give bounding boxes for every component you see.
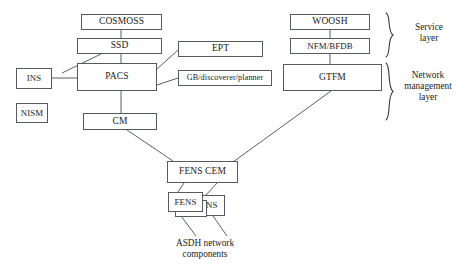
- node-fens[interactable]: FENS: [168, 192, 203, 212]
- edge-gtfm-fenscem: [233, 91, 331, 162]
- node-label: GTFM: [319, 73, 346, 83]
- node-gb-discoverer-planner[interactable]: GB/discoverer/planner: [178, 70, 272, 86]
- edge-fenscem-ens: [206, 183, 217, 195]
- edge-pacs-gb: [157, 78, 178, 85]
- network-management-layer-brace: [384, 62, 397, 121]
- node-nfm-bfdb[interactable]: NFM/BFDB: [290, 38, 370, 54]
- node-label: CM: [113, 117, 128, 127]
- node-woosh[interactable]: WOOSH: [290, 14, 370, 30]
- node-label: FENS CEM: [179, 167, 226, 177]
- network-management-layer-label: Network management layer: [398, 70, 458, 103]
- edge-cm-fenscem: [127, 130, 173, 161]
- node-label: FENS: [175, 198, 197, 207]
- edge-fenscem-fens: [178, 183, 184, 192]
- node-label: GB/discoverer/planner: [187, 74, 264, 82]
- caption-text: Network management layer: [404, 70, 452, 102]
- node-ept[interactable]: EPT: [178, 41, 263, 57]
- node-cm[interactable]: CM: [83, 113, 157, 130]
- node-pacs[interactable]: PACS: [77, 63, 157, 91]
- node-label: SSD: [111, 41, 129, 51]
- caption-text: ASDH network components: [176, 238, 234, 259]
- node-ins[interactable]: INS: [16, 68, 52, 89]
- architecture-diagram: COSMOSS SSD PACS INS NISM CM EPT GB/disc…: [0, 0, 462, 269]
- node-nism[interactable]: NISM: [16, 103, 48, 123]
- caption-text: Service layer: [415, 22, 443, 43]
- edge-ens-asdh: [213, 216, 227, 236]
- node-label: COSMOSS: [99, 17, 144, 27]
- node-fens-cem[interactable]: FENS CEM: [167, 161, 238, 183]
- node-ssd[interactable]: SSD: [77, 38, 162, 54]
- node-label: EPT: [212, 44, 229, 54]
- service-layer-brace: [384, 12, 397, 58]
- service-layer-label: Service layer: [400, 22, 458, 44]
- asdh-network-components-label: ASDH network components: [150, 238, 260, 260]
- node-label: WOOSH: [312, 17, 347, 27]
- node-label: PACS: [105, 72, 128, 82]
- node-gtfm[interactable]: GTFM: [283, 64, 382, 91]
- node-label: INS: [27, 74, 41, 83]
- node-label: NFM/BFDB: [307, 42, 352, 51]
- node-cosmoss[interactable]: COSMOSS: [81, 14, 162, 30]
- node-label: NISM: [21, 109, 43, 118]
